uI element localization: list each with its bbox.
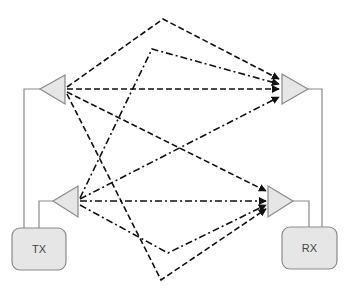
mimo-diagram: TXRX [0,0,350,292]
tx-ant-2-antenna-icon [53,186,78,217]
signal-path-tx-ant-1-to-rx-ant-2-reflected-bottom [67,94,266,280]
wire-tx-ant-2 [39,201,53,228]
signal-path-tx-ant-2-to-rx-ant-2-reflected-bottom [80,205,266,253]
tx-ant-1-antenna-icon [40,75,65,104]
signal-path-tx-ant-1-to-rx-ant-1-reflected-top [67,19,279,87]
wire-tx-ant-1 [24,89,40,228]
signal-path-tx-ant-2-to-rx-ant-1-reflected-top [80,49,279,198]
tx-box: TX [12,228,66,270]
tx-label: TX [32,243,47,255]
rx-label: RX [302,242,318,254]
rx-ant-2-antenna-icon [268,186,293,217]
rx-box: RX [282,227,337,269]
signal-path-tx-ant-1-to-rx-ant-2-direct [67,92,266,191]
wire-rx-ant-2 [293,201,309,227]
wire-rx-ant-1 [308,89,322,227]
signal-path-tx-ant-2-to-rx-ant-1-direct [80,97,279,199]
transceiver-boxes: TXRX [12,227,337,270]
signal-paths [67,19,279,280]
rx-ant-1-antenna-icon [282,74,308,104]
